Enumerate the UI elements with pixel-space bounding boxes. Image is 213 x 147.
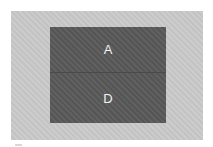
scan-artifact-mark (15, 144, 22, 146)
diagram-canvas: A D (0, 0, 213, 147)
region-a-label: A (104, 42, 113, 57)
stacked-block: A D (50, 27, 166, 123)
region-d: D (50, 73, 166, 123)
region-d-label: D (103, 91, 112, 106)
region-a: A (50, 27, 166, 72)
